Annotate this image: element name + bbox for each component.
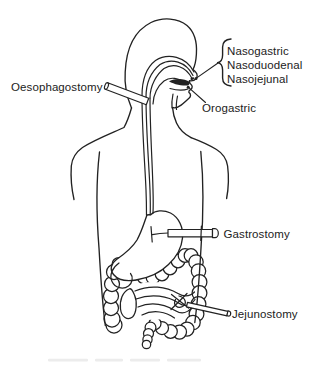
orogastric-pointer-dot [187,86,190,89]
orogastric-label: Orogastric [202,101,256,115]
oesophagus-tube-lines [142,96,153,216]
tongue-line [170,89,188,91]
left-shoulder-arm [71,108,131,200]
oesophagostomy-label: Oesophagostomy [11,80,103,94]
nasal-routes-label-group: Nasogastric Nasoduodenal Nasojejunal [227,44,302,87]
nasal-pointer-dot [195,77,198,80]
nasojejunal-label: Nasojejunal [227,72,302,86]
nasoduodenal-label: Nasoduodenal [227,58,302,72]
enteral-feeding-routes-diagram: Nasogastric Nasoduodenal Nasojejunal Oes… [0,0,317,366]
gastrostomy-label: Gastrostomy [224,227,290,241]
throat-line [172,94,173,108]
nasal-pointer-line [196,63,218,78]
nasogastric-label: Nasogastric [227,44,302,58]
head-profile [125,19,197,138]
mouth-shading [169,79,190,86]
gastrostomy-tube-cap [213,229,219,238]
jejunostomy-label: Jejunostomy [232,307,298,321]
right-shoulder-arm [191,138,228,199]
jejunostomy-tube-cap [227,311,231,316]
cropped-caption-fragment [48,359,201,362]
